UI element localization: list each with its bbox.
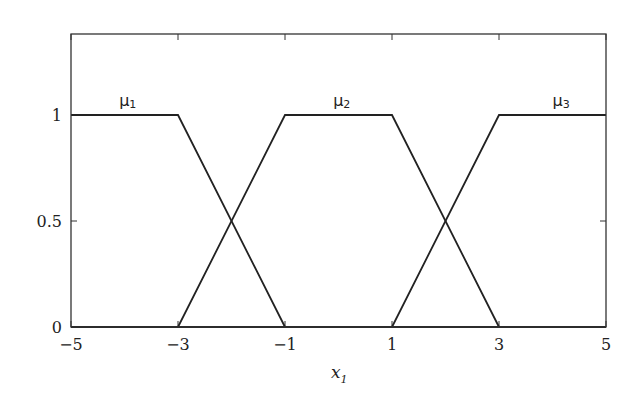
axis-ticks <box>71 34 606 327</box>
x-tick-label: −1 <box>273 335 297 354</box>
x-tick-label: 3 <box>494 335 504 354</box>
series-line-μ1 <box>71 115 606 327</box>
x-tick-label: 1 <box>387 335 397 354</box>
x-axis-label: x1 <box>331 362 348 386</box>
x-tick-labels: −5−3−1135 <box>59 335 611 354</box>
series-line-μ3 <box>71 115 606 327</box>
y-tick-label: 0 <box>52 318 62 337</box>
series-labels: μ1μ2μ3 <box>119 91 570 111</box>
y-tick-label: 1 <box>52 106 62 125</box>
x-tick-label: −5 <box>59 335 83 354</box>
x-tick-label: −3 <box>166 335 190 354</box>
series-label: μ1 <box>119 91 136 111</box>
membership-function-chart: −5−3−1135 00.51 μ1μ2μ3 x1 <box>0 0 636 405</box>
y-tick-labels: 00.51 <box>37 106 62 337</box>
series-label: μ2 <box>333 91 350 111</box>
x-tick-label: 5 <box>601 335 611 354</box>
series-lines <box>71 115 606 327</box>
plot-frame <box>71 34 606 327</box>
series-label: μ3 <box>553 91 570 111</box>
y-tick-label: 0.5 <box>37 212 62 231</box>
series-line-μ2 <box>71 115 606 327</box>
